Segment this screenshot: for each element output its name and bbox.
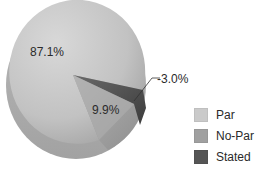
swatch-stated (194, 150, 208, 164)
label-nopar: 9.9% (92, 103, 119, 117)
swatch-nopar (194, 129, 208, 143)
legend-label: Stated (216, 150, 251, 164)
legend-label: No-Par (216, 129, 254, 143)
legend: Par No-Par Stated (194, 104, 254, 167)
label-stated: -3.0% (157, 72, 188, 86)
swatch-par (194, 108, 208, 122)
legend-label: Par (216, 108, 235, 122)
label-par: 87.1% (30, 45, 64, 59)
legend-item-nopar: No-Par (194, 125, 254, 146)
legend-item-stated: Stated (194, 146, 254, 167)
legend-item-par: Par (194, 104, 254, 125)
